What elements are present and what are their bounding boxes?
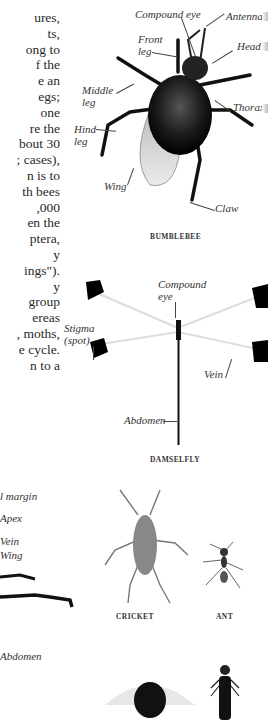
label-antenna: Antenna [226, 10, 263, 22]
label-front-leg-1: Front [138, 33, 163, 45]
caption-damselfly: DAMSELFLY [150, 455, 200, 464]
page-tab-marker [262, 104, 268, 113]
label-stigma-2: (spot) [64, 334, 90, 346]
label-apex: Apex [0, 512, 22, 524]
label-claw: Claw [215, 202, 238, 214]
caption-cricket: CRICKET [116, 612, 154, 621]
fly-illustration [95, 670, 205, 710]
caption-bumblebee: BUMBLEBEE [150, 232, 201, 241]
left-insect-legs [0, 565, 80, 615]
label-wing: Wing [104, 180, 127, 192]
label-vein: Vein [204, 368, 223, 380]
label-wing: Wing [0, 549, 23, 561]
label-hind-leg-1: Hind [74, 123, 96, 135]
leader-line [93, 346, 94, 360]
label-margin: l margin [0, 490, 37, 502]
label-middle-leg-1: Middle [82, 84, 113, 96]
caption-ant: ANT [216, 612, 233, 621]
leader-line [175, 302, 176, 318]
label-thorax: Thorax [233, 101, 265, 113]
label-stigma-1: Stigma [64, 322, 95, 334]
label-vein: Vein [0, 535, 19, 547]
label-compound-eye-2: eye [158, 290, 173, 302]
label-abdomen: Abdomen [0, 650, 42, 662]
label-compound-eye: Compound eye [135, 8, 201, 20]
cricket-illustration [100, 485, 190, 605]
label-hind-leg-2: leg [74, 135, 87, 147]
body-text-line: ptera, [0, 231, 60, 247]
page-tab-marker [262, 42, 268, 51]
beetle-illustration [205, 660, 245, 720]
leader-line [163, 421, 177, 422]
page-tab-marker [262, 12, 268, 21]
label-abdomen: Abdomen [124, 414, 166, 426]
label-middle-leg-2: leg [82, 96, 95, 108]
label-front-leg-2: leg [138, 45, 151, 57]
label-compound-eye-1: Compound [158, 278, 206, 290]
ant-illustration [198, 540, 248, 610]
label-head: Head [237, 40, 261, 52]
body-text-line: y [0, 247, 60, 263]
